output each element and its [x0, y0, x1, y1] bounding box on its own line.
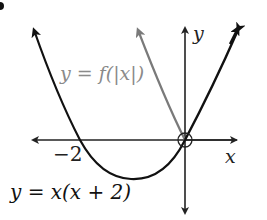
abs-curve	[138, 30, 185, 140]
y-axis-label: y	[193, 22, 204, 44]
parabola-curve	[185, 30, 238, 140]
parabola-label: y = x(x + 2)	[10, 180, 131, 204]
abs-curve-label: y = f(|x|)	[60, 62, 144, 84]
tick-label-neg2: −2	[53, 142, 82, 166]
x-axis-label: x	[225, 145, 236, 167]
bullet-icon	[0, 2, 4, 10]
